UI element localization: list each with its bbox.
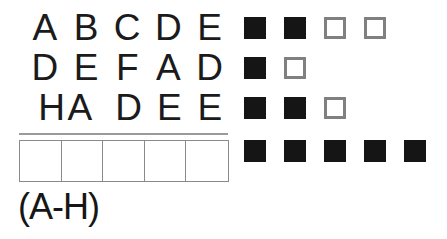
letter-cell: C: [106, 8, 147, 48]
answer-cell[interactable]: [62, 141, 104, 181]
letter-cell: F: [106, 48, 147, 88]
filled-square-marker: [364, 140, 386, 162]
marker-slot: [324, 17, 364, 39]
letter-cell: E: [65, 48, 106, 88]
answer-cell[interactable]: [103, 141, 145, 181]
letter-cell: H: [24, 88, 67, 128]
filled-square-marker: [244, 57, 266, 79]
filled-square-marker: [244, 140, 266, 162]
letter-cell: A: [24, 8, 65, 48]
empty-square-marker: [324, 17, 346, 39]
horizontal-divider: [19, 133, 228, 135]
marker-slot: [364, 140, 404, 162]
letter-cell: D: [189, 48, 230, 88]
letter-range-label: (A-H): [18, 186, 99, 228]
marker-slot: [324, 97, 364, 119]
filled-square-marker: [244, 17, 266, 39]
solution-answer-grid[interactable]: [19, 140, 229, 182]
guess-row-1-markers: [244, 8, 444, 48]
answer-cell[interactable]: [145, 141, 187, 181]
marker-slot: [244, 57, 284, 79]
marker-slot: [284, 97, 324, 119]
guess-row-1-letters: A B C D E: [24, 8, 230, 48]
filled-square-marker: [404, 140, 426, 162]
letter-puzzle-worksheet: A B C D E D E F A D H A D E E (A-H): [0, 0, 447, 239]
letter-cell: D: [108, 88, 149, 128]
guess-row-3-letters: H A D E E: [24, 88, 230, 128]
marker-slot: [284, 57, 324, 79]
letter-cell: A: [67, 88, 109, 128]
empty-square-marker: [284, 57, 306, 79]
letter-cell: E: [189, 8, 230, 48]
answer-cell[interactable]: [186, 141, 228, 181]
letter-cell: D: [148, 8, 189, 48]
letter-cell: E: [189, 88, 230, 128]
filled-square-marker: [284, 140, 306, 162]
marker-slot: [244, 17, 284, 39]
empty-square-marker: [364, 17, 386, 39]
guess-letters-column: A B C D E D E F A D H A D E E: [24, 8, 230, 128]
guess-row-2-letters: D E F A D: [24, 48, 230, 88]
marker-slot: [404, 140, 444, 162]
feedback-markers-column: [244, 8, 444, 171]
marker-slot: [244, 97, 284, 119]
filled-square-marker: [244, 97, 266, 119]
answer-cell[interactable]: [20, 141, 62, 181]
solution-row-markers: [244, 131, 444, 171]
filled-square-marker: [284, 17, 306, 39]
guess-row-2-markers: [244, 48, 444, 88]
marker-slot: [244, 140, 284, 162]
marker-slot: [364, 17, 404, 39]
filled-square-marker: [284, 97, 306, 119]
marker-slot: [284, 17, 324, 39]
letter-cell: A: [148, 48, 189, 88]
letter-cell: D: [24, 48, 65, 88]
empty-square-marker: [324, 97, 346, 119]
letter-cell: B: [65, 8, 106, 48]
filled-square-marker: [324, 140, 346, 162]
guess-row-3-markers: [244, 88, 444, 128]
marker-slot: [324, 140, 364, 162]
letter-cell: E: [149, 88, 190, 128]
marker-slot: [284, 140, 324, 162]
